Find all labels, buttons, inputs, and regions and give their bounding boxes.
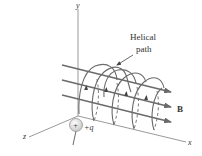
helical-path-label-line1: Helical	[130, 32, 156, 42]
helical-path	[79, 64, 164, 130]
x-axis-label: x	[187, 138, 192, 147]
charge-label: +q	[84, 123, 93, 132]
axes: y x z	[22, 1, 192, 147]
helical-path-label-line2: path	[136, 44, 152, 54]
charge-symbol: +	[73, 121, 78, 130]
magnetic-field-label: B	[177, 104, 183, 114]
charge: + +q	[70, 119, 94, 146]
y-axis-label: y	[75, 1, 80, 10]
callout-arrow-icon	[117, 55, 133, 65]
helical-path-callout: Helical path	[117, 32, 156, 65]
charge-velocity-tail	[73, 131, 76, 145]
z-axis-label: z	[22, 132, 27, 141]
helical-motion-diagram: y x z Helical path B	[0, 0, 202, 156]
